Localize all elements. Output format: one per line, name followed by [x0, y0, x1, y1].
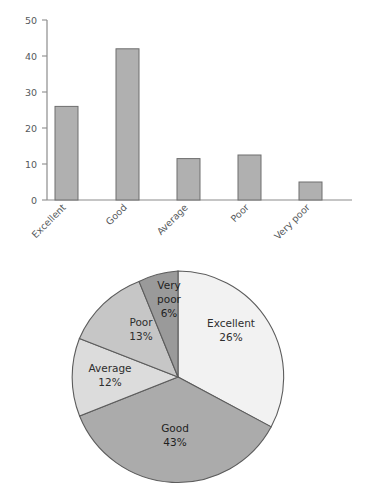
pie-label-average: Average: [88, 362, 131, 374]
bar-poor[interactable]: [238, 155, 261, 200]
y-tick-label-50: 50: [25, 15, 37, 26]
y-tick-label-40: 40: [25, 51, 37, 62]
pie-label-poor: Poor: [129, 316, 153, 328]
bar-excellent[interactable]: [55, 106, 78, 200]
y-tick-label-20: 20: [25, 123, 37, 134]
pie-value-excellent: 26%: [219, 331, 242, 343]
pie-chart: Excellent 26% Good 43% Average 12% Poor …: [0, 250, 368, 495]
x-tick-label-excellent: Excellent: [29, 201, 68, 240]
figure-container: 0 10 20 30 40 50 Excellent Good Average: [0, 0, 368, 495]
x-tick-label-very-poor: Very poor: [272, 202, 312, 242]
bar-good[interactable]: [116, 49, 139, 200]
pie-value-good: 43%: [163, 436, 186, 448]
bar-very-poor[interactable]: [299, 182, 322, 200]
x-tick-label-average: Average: [155, 202, 190, 237]
pie-value-very-poor: 6%: [161, 307, 178, 319]
x-tick-label-poor: Poor: [228, 202, 251, 225]
y-tick-label-0: 0: [31, 195, 37, 206]
pie-value-average: 12%: [98, 376, 121, 388]
pie-value-poor: 13%: [129, 330, 152, 342]
x-tick-label-good: Good: [103, 202, 128, 227]
pie-label-very-poor-line2: poor: [157, 293, 182, 305]
pie-label-good: Good: [161, 422, 189, 434]
y-tick-label-30: 30: [25, 87, 37, 98]
y-tick-label-10: 10: [25, 159, 37, 170]
pie-chart-svg: Excellent 26% Good 43% Average 12% Poor …: [0, 250, 368, 495]
bar-average[interactable]: [177, 159, 200, 200]
bar-chart: 0 10 20 30 40 50 Excellent Good Average: [0, 0, 368, 250]
bar-chart-svg: 0 10 20 30 40 50 Excellent Good Average: [0, 0, 368, 250]
pie-label-excellent: Excellent: [207, 317, 255, 329]
pie-label-very-poor-line1: Very: [157, 279, 180, 291]
